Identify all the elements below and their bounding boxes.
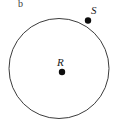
figure-id-label: b [18, 0, 23, 9]
geometry-figure: b R S [0, 0, 119, 130]
center-point-dot [59, 69, 65, 75]
center-point-label: R [57, 57, 64, 68]
circle-outline [9, 19, 109, 119]
circumference-point-dot [85, 17, 91, 23]
circumference-point-label: S [91, 5, 97, 16]
